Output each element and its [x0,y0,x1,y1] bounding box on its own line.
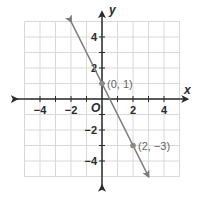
x-tick-label: −2 [65,104,78,116]
point-marker [130,143,136,149]
y-tick-label: −4 [84,155,97,167]
point-marker [99,81,105,87]
point-label: (0, 1) [107,78,133,90]
y-tick-label: 4 [91,31,98,43]
point-label: (2, −3) [138,140,170,152]
x-tick-label: −4 [34,104,47,116]
x-axis-label: x [183,83,192,97]
origin-label: O [91,101,101,115]
y-axis-label: y [108,3,117,17]
coordinate-plane: −4−22442−2−4 (0, 1)(2, −3) x y O [0,0,197,197]
y-tick-label: −2 [84,124,97,136]
x-tick-label: 4 [161,104,168,116]
axes [17,12,188,186]
x-tick-label: 2 [130,104,136,116]
